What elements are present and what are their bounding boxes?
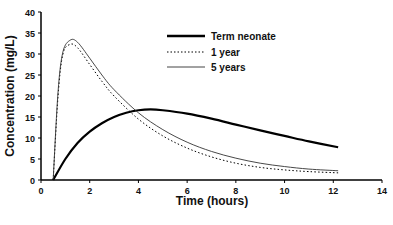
x-tick-label: 14 bbox=[377, 186, 387, 196]
concentration-time-chart: 024681012140510152025303540 Time (hours)… bbox=[0, 0, 393, 225]
legend-label-5-years: 5 years bbox=[211, 62, 246, 73]
series-line-5-years bbox=[53, 39, 338, 180]
y-tick-label: 20 bbox=[25, 92, 35, 102]
plot-lines bbox=[53, 39, 338, 180]
x-axis-label: Time (hours) bbox=[176, 194, 248, 208]
y-tick-label: 30 bbox=[25, 50, 35, 60]
axes bbox=[38, 12, 382, 183]
y-tick-label: 15 bbox=[25, 113, 35, 123]
y-axis-label: Concentration (mg/L) bbox=[3, 35, 17, 156]
series-line-1-year bbox=[53, 44, 338, 180]
x-tick-label: 0 bbox=[38, 186, 43, 196]
y-tick-label: 10 bbox=[25, 134, 35, 144]
series-line-term-neonate bbox=[53, 109, 338, 180]
x-tick-label: 12 bbox=[328, 186, 338, 196]
tick-labels: 024681012140510152025303540 bbox=[25, 8, 387, 197]
legend-label-term-neonate: Term neonate bbox=[211, 31, 276, 42]
legend-label-1-year: 1 year bbox=[211, 47, 240, 58]
legend: Term neonate 1 year 5 years bbox=[167, 31, 276, 73]
x-tick-label: 4 bbox=[136, 186, 141, 196]
y-tick-label: 5 bbox=[30, 155, 35, 165]
y-tick-label: 40 bbox=[25, 8, 35, 18]
y-tick-label: 35 bbox=[25, 29, 35, 39]
x-tick-label: 10 bbox=[280, 186, 290, 196]
y-tick-label: 0 bbox=[30, 176, 35, 186]
y-tick-label: 25 bbox=[25, 71, 35, 81]
x-tick-label: 2 bbox=[87, 186, 92, 196]
